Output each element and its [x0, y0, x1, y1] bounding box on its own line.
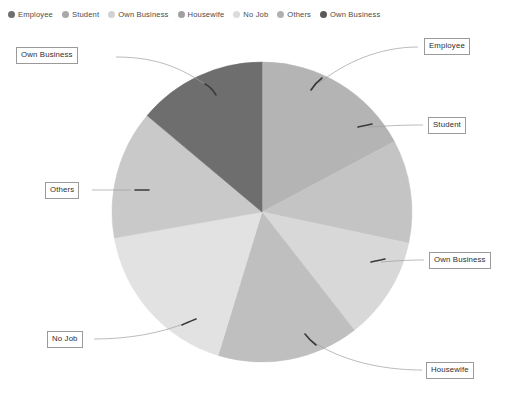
- slice-callout-label[interactable]: Student: [428, 117, 466, 134]
- slice-callout-label[interactable]: Others: [45, 182, 79, 199]
- slice-callout-label[interactable]: Own Business: [429, 252, 491, 269]
- pie-wedges: [112, 62, 412, 362]
- slice-callout-label[interactable]: Housewife: [426, 362, 474, 379]
- slice-callout-label[interactable]: No Job: [47, 331, 83, 348]
- pie-chart-figure: EmployeeStudentOwn BusinessHousewifeNo J…: [0, 0, 522, 408]
- leader-employee: [318, 47, 418, 84]
- slice-callout-label[interactable]: Own Business: [16, 47, 78, 64]
- slice-callout-label[interactable]: Employee: [424, 38, 470, 55]
